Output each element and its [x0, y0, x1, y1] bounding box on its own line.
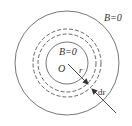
dashed-circle-outer — [33, 29, 101, 97]
inner-field-label: B=0 — [59, 46, 77, 57]
center-label: O — [58, 63, 65, 74]
coaxial-field-diagram: B=0 B=0 O r dr — [0, 0, 132, 126]
outer-solid-circle — [15, 11, 119, 115]
outer-field-label: B=0 — [104, 12, 122, 23]
thickness-label: dr — [98, 87, 106, 97]
radius-label: r — [79, 65, 83, 75]
